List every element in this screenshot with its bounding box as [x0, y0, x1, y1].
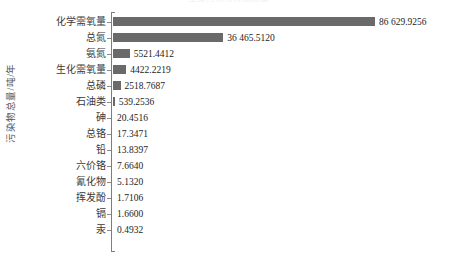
chart-row: 挥发酚1.7106	[0, 190, 456, 206]
category-label: 化学需氧量	[22, 14, 106, 30]
axis-tick	[107, 38, 111, 39]
plot-area: 化学需氧量86 629.9256总氮36 465.5120氨氮5521.4412…	[0, 12, 456, 252]
axis-tick	[107, 198, 111, 199]
bar-value-label: 7.6640	[117, 158, 143, 174]
bar-value-label: 0.4932	[117, 222, 143, 238]
bar-value-label: 36 465.5120	[227, 30, 275, 46]
axis-tick	[107, 70, 111, 71]
chart-row: 镉1.6600	[0, 206, 456, 222]
chart-row: 生化需氧量4422.2219	[0, 62, 456, 78]
chart-row: 砷20.4516	[0, 110, 456, 126]
category-label: 挥发酚	[22, 190, 106, 206]
bar-value-label: 1.6600	[117, 206, 143, 222]
category-label: 汞	[22, 222, 106, 238]
axis-tick	[107, 102, 111, 103]
bar	[113, 17, 375, 26]
bar-value-label: 1.7106	[117, 190, 143, 206]
bar	[113, 97, 115, 106]
bar-value-label: 86 629.9256	[379, 14, 427, 30]
axis-tick	[107, 166, 111, 167]
bar-value-label: 20.4516	[117, 110, 148, 126]
bar-value-label: 2518.7687	[125, 78, 165, 94]
bar-chart: 主要污染物排放总量 污染物总量/吨/年 化学需氧量86 629.9256总氮36…	[0, 0, 456, 259]
axis-tick	[107, 54, 111, 55]
chart-row: 总氮36 465.5120	[0, 30, 456, 46]
bar	[113, 49, 130, 58]
chart-row: 石油类539.2536	[0, 94, 456, 110]
category-label: 镉	[22, 206, 106, 222]
bar	[113, 33, 223, 42]
category-label: 砷	[22, 110, 106, 126]
axis-tick	[107, 214, 111, 215]
bar	[113, 65, 126, 74]
y-axis-bottom-tick	[111, 251, 115, 252]
y-axis-top-tick	[111, 12, 115, 13]
category-label: 总氮	[22, 30, 106, 46]
chart-row: 六价铬7.6640	[0, 158, 456, 174]
chart-row: 氰化物5.1320	[0, 174, 456, 190]
chart-row: 总铬17.3471	[0, 126, 456, 142]
category-label: 铅	[22, 142, 106, 158]
bar-value-label: 13.8397	[117, 142, 148, 158]
axis-tick	[107, 150, 111, 151]
chart-row: 总磷2518.7687	[0, 78, 456, 94]
bar-value-label: 5.1320	[117, 174, 143, 190]
category-label: 总铬	[22, 126, 106, 142]
axis-tick	[107, 134, 111, 135]
bar-value-label: 5521.4412	[134, 46, 174, 62]
axis-tick	[107, 86, 111, 87]
category-label: 氰化物	[22, 174, 106, 190]
bar-value-label: 17.3471	[117, 126, 148, 142]
bar-value-label: 539.2536	[119, 94, 155, 110]
bar-value-label: 4422.2219	[130, 62, 170, 78]
chart-row: 氨氮5521.4412	[0, 46, 456, 62]
category-label: 石油类	[22, 94, 106, 110]
category-label: 氨氮	[22, 46, 106, 62]
category-label: 总磷	[22, 78, 106, 94]
chart-row: 铅13.8397	[0, 142, 456, 158]
category-label: 六价铬	[22, 158, 106, 174]
chart-row: 汞0.4932	[0, 222, 456, 238]
bar	[113, 81, 121, 90]
axis-tick	[107, 230, 111, 231]
axis-tick	[107, 22, 111, 23]
category-label: 生化需氧量	[22, 62, 106, 78]
chart-title: 主要污染物排放总量	[0, 0, 456, 3]
axis-tick	[107, 182, 111, 183]
axis-tick	[107, 118, 111, 119]
chart-row: 化学需氧量86 629.9256	[0, 14, 456, 30]
